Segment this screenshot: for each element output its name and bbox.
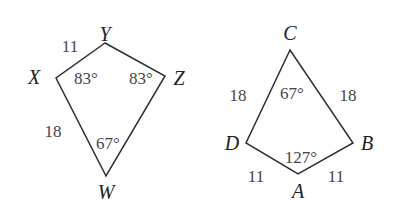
side-label-XY: 11 — [62, 38, 78, 55]
vertex-label-B: B — [361, 133, 373, 153]
side-label-XW: 18 — [45, 123, 62, 140]
angle-label-X: 83° — [74, 70, 98, 87]
side-label-DA: 11 — [248, 168, 264, 185]
angle-label-Z: 83° — [129, 70, 153, 87]
side-label-DC: 18 — [230, 87, 247, 104]
vertex-label-C: C — [283, 23, 296, 43]
vertex-label-Y: Y — [99, 24, 110, 44]
side-label-AB: 11 — [328, 168, 344, 185]
geometry-figure-canvas: Y X Z W 11 18 83° 83° 67° C D B A 18 18 … — [0, 0, 396, 211]
vertex-label-Z: Z — [173, 68, 184, 88]
side-label-CB: 18 — [340, 87, 357, 104]
vertex-label-X: X — [28, 67, 40, 87]
vertex-label-W: W — [98, 182, 115, 202]
angle-label-A: 127° — [285, 149, 317, 166]
vertex-label-D: D — [225, 133, 239, 153]
angle-label-W: 67° — [96, 135, 120, 152]
angle-label-C: 67° — [280, 85, 304, 102]
vertex-label-A: A — [292, 181, 304, 201]
kite-xyzw-outline — [56, 43, 165, 176]
